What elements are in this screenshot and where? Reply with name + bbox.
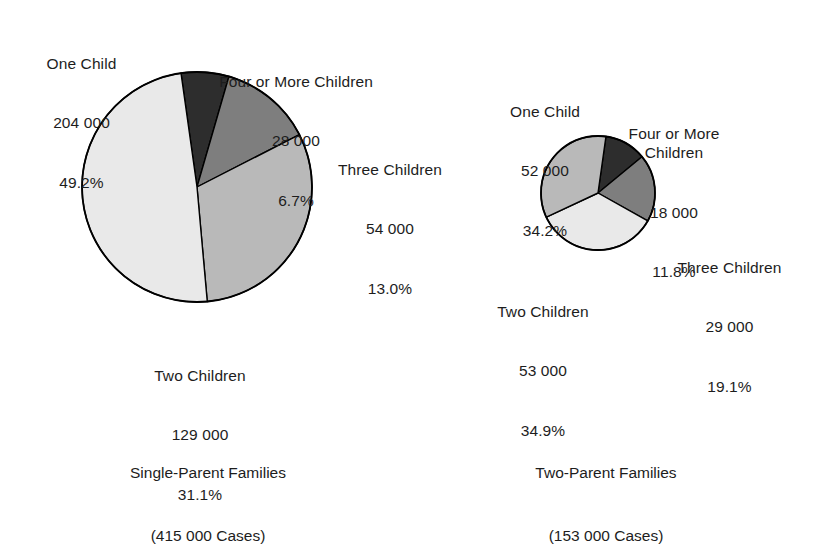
label-value: 53 000	[478, 361, 608, 381]
caption-subtitle: (415 000 Cases)	[88, 526, 328, 547]
caption-title: Two-Parent Families	[496, 463, 716, 484]
caption-title: Single-Parent Families	[88, 463, 328, 484]
label-pct: 34.2%	[490, 221, 600, 241]
label-name: Three Children	[662, 258, 797, 278]
label-name: One Child	[14, 54, 149, 74]
label-one-child-single: One Child 204 000 49.2%	[14, 14, 149, 232]
single-parent-chart-panel: One Child 204 000 49.2% Four or More Chi…	[0, 0, 470, 510]
label-name: Two Children	[478, 302, 608, 322]
caption-subtitle: (153 000 Cases)	[496, 526, 716, 547]
label-value: 54 000	[320, 219, 460, 239]
label-value: 52 000	[490, 161, 600, 181]
label-name: One Child	[490, 102, 600, 122]
caption-two-parent-families: Two-Parent Families (153 000 Cases)	[496, 421, 716, 548]
label-value: 204 000	[14, 113, 149, 133]
label-three-children-single: Three Children 54 000 13.0%	[320, 120, 460, 338]
label-name: Four or More Children	[614, 124, 734, 164]
label-name: Two Children	[130, 366, 270, 386]
label-pct: 49.2%	[14, 173, 149, 193]
label-name: Four or More Children	[196, 72, 396, 92]
label-pct: 13.0%	[320, 279, 460, 299]
label-three-children-two-parent: Three Children 29 000 19.1%	[662, 218, 797, 436]
label-name: Three Children	[320, 160, 460, 180]
label-one-child-two-parent: One Child 52 000 34.2%	[490, 62, 600, 280]
caption-single-parent-families: Single-Parent Families (415 000 Cases)	[88, 421, 328, 548]
label-pct: 19.1%	[662, 377, 797, 397]
label-value: 29 000	[662, 317, 797, 337]
